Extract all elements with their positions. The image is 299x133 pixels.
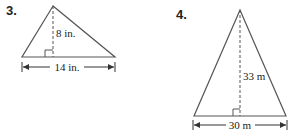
triangle-4: 33 m 30 m xyxy=(193,10,287,131)
triangle-4-height-label: 33 m xyxy=(243,70,266,82)
triangle-3-height-label: 8 in. xyxy=(56,27,76,39)
triangles-diagram: 8 in. 14 in. 33 m 30 m xyxy=(0,0,299,133)
triangle-3-base-label: 14 in. xyxy=(54,61,79,73)
right-angle-icon xyxy=(233,109,240,116)
triangle-3: 8 in. 14 in. xyxy=(22,6,115,73)
triangle-4-base-label: 30 m xyxy=(229,119,252,131)
right-angle-icon xyxy=(45,50,53,57)
